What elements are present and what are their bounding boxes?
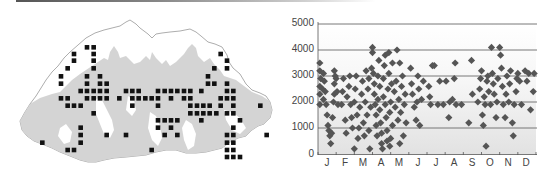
record-square (91, 96, 96, 101)
record-square (195, 111, 200, 116)
x-tick-label-nov: N (502, 157, 514, 168)
record-square (130, 96, 135, 101)
x-tick-label-feb: F (339, 157, 351, 168)
record-square (175, 133, 180, 138)
record-square (65, 103, 70, 108)
record-square (212, 81, 217, 86)
record-square (78, 140, 83, 145)
record-square (214, 111, 219, 116)
x-tick-label-jul: J (430, 157, 442, 168)
record-square (156, 103, 161, 108)
record-square (212, 66, 217, 71)
record-square (225, 148, 230, 153)
record-square (195, 103, 200, 108)
record-square (188, 111, 193, 116)
record-square (231, 148, 236, 153)
y-tick-label-1000: 1000 (280, 121, 314, 132)
x-tick-label-oct: O (484, 157, 496, 168)
record-square (218, 96, 223, 101)
record-square (149, 148, 154, 153)
record-square (85, 45, 90, 50)
record-square (169, 96, 174, 101)
record-square (225, 155, 230, 160)
record-square (72, 103, 77, 108)
record-square (91, 89, 96, 94)
record-square (143, 96, 148, 101)
record-square (175, 118, 180, 123)
record-square (169, 118, 174, 123)
y-tick-label-5000: 5000 (280, 17, 314, 28)
y-tick-label-2000: 2000 (280, 95, 314, 106)
record-square (169, 89, 174, 94)
x-tick-label-apr: A (375, 157, 387, 168)
record-square (162, 133, 167, 138)
x-tick-label-jan: J (321, 157, 333, 168)
record-square (231, 155, 236, 160)
record-square (78, 89, 83, 94)
record-square (231, 89, 236, 94)
record-square (98, 96, 103, 101)
x-tick-label-may: M (393, 157, 405, 168)
record-square (175, 89, 180, 94)
record-square (136, 89, 141, 94)
record-square (188, 96, 193, 101)
record-square (188, 103, 193, 108)
record-square (201, 103, 206, 108)
elevation-season-chart: 5000 4000 3000 2000 1000 0 J F M A M J J… (280, 0, 558, 175)
record-square (201, 111, 206, 116)
record-square (149, 96, 154, 101)
record-square (264, 133, 269, 138)
record-square (258, 103, 263, 108)
record-square (124, 89, 129, 94)
record-square (231, 133, 236, 138)
record-square (156, 96, 161, 101)
record-square (231, 103, 236, 108)
record-square (225, 89, 230, 94)
record-square (225, 96, 230, 101)
record-square (225, 81, 230, 86)
record-square (78, 125, 83, 130)
record-square (98, 81, 103, 86)
record-square (104, 81, 109, 86)
x-tick-label-mar: M (357, 157, 369, 168)
record-square (238, 155, 243, 160)
record-square (207, 103, 212, 108)
distribution-map (0, 0, 280, 175)
record-square (218, 103, 223, 108)
record-square (225, 58, 230, 63)
y-tick-label-3000: 3000 (280, 69, 314, 80)
record-square (199, 89, 204, 94)
record-square (225, 66, 230, 71)
record-square (104, 96, 109, 101)
record-square (72, 58, 77, 63)
record-square (162, 89, 167, 94)
record-square (231, 125, 236, 130)
x-tick-label-sep: S (466, 157, 478, 168)
record-square (104, 89, 109, 94)
record-square (218, 52, 223, 57)
record-square (207, 111, 212, 116)
record-square (91, 58, 96, 63)
record-square (231, 140, 236, 145)
record-square (231, 96, 236, 101)
record-square (65, 96, 70, 101)
record-square (59, 81, 64, 86)
record-square (85, 96, 90, 101)
record-square (40, 140, 45, 145)
record-square (206, 74, 211, 79)
record-square (136, 96, 141, 101)
y-tick-label-0: 0 (280, 148, 314, 159)
record-square (72, 52, 77, 57)
record-square (91, 66, 96, 71)
record-square (225, 111, 230, 116)
record-square (225, 140, 230, 145)
record-square (238, 118, 243, 123)
record-square (91, 111, 96, 116)
record-square (156, 118, 161, 123)
record-square (85, 81, 90, 86)
record-square (72, 148, 77, 153)
x-tick-label-aug: A (448, 157, 460, 168)
record-square (85, 89, 90, 94)
record-square (162, 118, 167, 123)
record-square (59, 74, 64, 79)
